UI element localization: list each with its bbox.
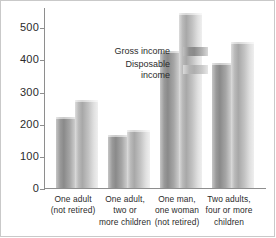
x-category-label: Two adults,four or morechildren bbox=[200, 194, 258, 228]
x-category-label-line: more children bbox=[96, 217, 154, 228]
x-category-label-line: (not retired) bbox=[44, 205, 102, 216]
legend-item-label-line: income bbox=[125, 70, 170, 81]
y-axis-line bbox=[44, 8, 45, 189]
x-category-label-line: One adult, bbox=[96, 194, 154, 205]
y-tick-mark bbox=[40, 189, 45, 190]
y-tick-label: 200 bbox=[20, 118, 39, 130]
legend-item: Disposableincome bbox=[56, 59, 216, 82]
x-category-label: One adult(not retired) bbox=[44, 194, 102, 217]
y-tick-mark bbox=[40, 93, 45, 94]
plot-area: 0100200300400500 bbox=[44, 8, 266, 189]
x-category-label-line: children bbox=[200, 217, 258, 228]
legend-item-label: Disposableincome bbox=[125, 59, 170, 81]
x-category-label: One man,one woman(not retired) bbox=[148, 194, 206, 228]
bar-top-edge bbox=[179, 13, 202, 15]
x-category-label: One adult,two ormore children bbox=[96, 194, 154, 228]
x-axis-category-labels: One adult(not retired)One adult,two ormo… bbox=[44, 194, 270, 236]
chart-legend: Gross incomeDisposableincome bbox=[56, 46, 216, 83]
legend-item-label-line: Gross income bbox=[114, 46, 170, 57]
legend-item: Gross income bbox=[56, 46, 216, 58]
legend-swatch bbox=[183, 65, 208, 74]
legend-swatch bbox=[183, 47, 208, 56]
bar-disposable-income bbox=[179, 13, 202, 188]
y-tick-mark bbox=[40, 28, 45, 29]
x-category-label-line: One man, bbox=[148, 194, 206, 205]
x-category-label-line: one woman bbox=[148, 205, 206, 216]
x-category-label-line: two or bbox=[96, 205, 154, 216]
y-tick-label: 300 bbox=[20, 86, 39, 98]
legend-item-label-line: Disposable bbox=[125, 59, 170, 70]
legend-item-label: Gross income bbox=[114, 46, 170, 57]
bar-top-edge bbox=[231, 42, 254, 44]
x-category-label-line: (not retired) bbox=[148, 217, 206, 228]
x-category-label-line: four or more bbox=[200, 205, 258, 216]
y-tick-label: 400 bbox=[20, 53, 39, 65]
x-category-label-line: One adult bbox=[44, 194, 102, 205]
y-tick-label: 100 bbox=[20, 150, 39, 162]
bar-chart-figure: 0100200300400500 One adult(not retired)O… bbox=[0, 0, 276, 238]
bar-disposable-income bbox=[75, 100, 98, 188]
x-axis-line bbox=[44, 188, 266, 189]
x-category-label-line: Two adults, bbox=[200, 194, 258, 205]
y-tick-mark bbox=[40, 125, 45, 126]
y-tick-label: 500 bbox=[20, 21, 39, 33]
bar-top-edge bbox=[75, 100, 98, 102]
bar-disposable-income bbox=[231, 42, 254, 188]
y-tick-mark bbox=[40, 60, 45, 61]
y-tick-mark bbox=[40, 157, 45, 158]
y-tick-label: 0 bbox=[33, 182, 39, 194]
bar-disposable-income bbox=[127, 130, 150, 188]
bar-top-edge bbox=[127, 130, 150, 132]
